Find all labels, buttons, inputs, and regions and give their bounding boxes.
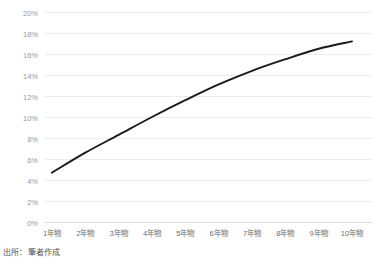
- y-axis-tick-label: 2%: [27, 198, 38, 207]
- y-axis-tick-label: 12%: [23, 93, 38, 102]
- series-group: [52, 41, 352, 172]
- y-axis-tick-label: 8%: [27, 135, 38, 144]
- x-axis-tick-label: 10年物: [341, 228, 364, 238]
- x-axis-tick-label: 1年物: [43, 228, 62, 238]
- x-axis-tick-label: 2年物: [76, 228, 95, 238]
- y-axis-tick-label: 0%: [27, 219, 38, 228]
- x-axis-tick-labels: 1年物2年物3年物4年物5年物6年物7年物8年物9年物10年物: [43, 228, 364, 238]
- y-axis-tick-label: 6%: [27, 156, 38, 165]
- x-axis-tick-label: 5年物: [176, 228, 195, 238]
- y-axis-tick-label: 18%: [23, 30, 38, 39]
- yield-curve-chart: 0%2%4%6%8%10%12%14%16%18%20% 1年物2年物3年物4年…: [0, 0, 378, 265]
- y-axis-tick-label: 16%: [23, 51, 38, 60]
- x-axis-tick-label: 7年物: [243, 228, 262, 238]
- x-axis-tick-label: 6年物: [210, 228, 229, 238]
- y-axis-tick-labels: 0%2%4%6%8%10%12%14%16%18%20%: [23, 9, 38, 228]
- chart-canvas: 0%2%4%6%8%10%12%14%16%18%20% 1年物2年物3年物4年…: [0, 0, 378, 265]
- x-axis-tick-label: 4年物: [143, 228, 162, 238]
- y-axis-tick-label: 20%: [23, 9, 38, 18]
- x-axis-tick-label: 3年物: [110, 228, 129, 238]
- source-note: 出所：筆者作成: [3, 246, 60, 257]
- x-axis-tick-label: 8年物: [276, 228, 295, 238]
- y-axis-tick-label: 10%: [23, 114, 38, 123]
- y-axis-tick-label: 14%: [23, 72, 38, 81]
- series-line: [52, 41, 352, 172]
- y-axis-tick-label: 4%: [27, 177, 38, 186]
- x-axis-tick-label: 9年物: [310, 228, 329, 238]
- gridline-group: [45, 13, 372, 223]
